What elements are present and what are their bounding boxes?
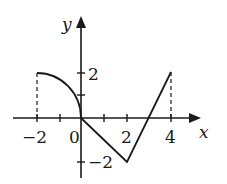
tick-label-y-2: 2 [88,64,99,84]
x-axis-label: x [199,122,209,142]
piecewise-lines [81,72,171,162]
y-axis-arrow-icon [76,16,86,28]
tick-label-x-2: 2 [121,127,132,147]
tick-label-x-4: 4 [165,127,176,147]
function-graph: y x −2 0 2 4 2 −2 [0,0,227,184]
tick-label-origin: 0 [69,127,80,147]
arc-curve [37,73,81,118]
tick-label-y-neg2: −2 [88,152,113,172]
y-axis-label: y [61,14,72,34]
tick-label-x-neg2: −2 [22,127,47,147]
